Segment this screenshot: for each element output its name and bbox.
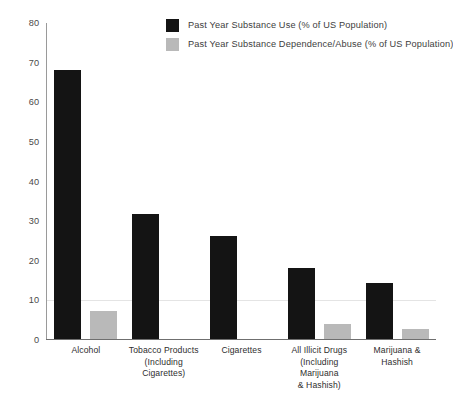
bar[interactable]: [132, 214, 159, 339]
bar[interactable]: [402, 329, 429, 339]
y-axis-tick-80: 80: [29, 18, 39, 28]
x-axis-label: Cigarettes: [203, 345, 281, 391]
x-axis-label: Alcohol: [47, 345, 125, 391]
y-axis-tick-30: 30: [29, 216, 39, 226]
bar[interactable]: [210, 236, 237, 339]
y-axis-tick-40: 40: [29, 177, 39, 187]
bar-group: [203, 23, 281, 339]
y-axis-tick-70: 70: [29, 58, 39, 68]
bar[interactable]: [366, 283, 393, 339]
x-axis-label: All Illicit Drugs(Including Marijuana& H…: [280, 345, 358, 391]
bar-group: [280, 23, 358, 339]
y-axis-tick-10: 10: [29, 295, 39, 305]
bar[interactable]: [288, 268, 315, 339]
bar-group: [47, 23, 125, 339]
plot-area: 01020304050607080: [46, 23, 436, 340]
y-axis-tick-20: 20: [29, 256, 39, 266]
bar-groups: [47, 23, 436, 339]
y-axis-tick-60: 60: [29, 97, 39, 107]
y-axis-tick-0: 0: [34, 335, 39, 345]
bar[interactable]: [54, 70, 81, 339]
bar[interactable]: [90, 311, 117, 339]
bar-group: [358, 23, 436, 339]
x-axis-line: [46, 339, 436, 340]
bar[interactable]: [324, 324, 351, 339]
bar-group: [125, 23, 203, 339]
x-axis-label: Marijuana & Hashish: [358, 345, 436, 391]
x-axis-label: Tobacco Products(Including Cigarettes): [125, 345, 203, 391]
y-axis-tick-50: 50: [29, 137, 39, 147]
x-axis-labels: AlcoholTobacco Products(Including Cigare…: [47, 345, 436, 391]
